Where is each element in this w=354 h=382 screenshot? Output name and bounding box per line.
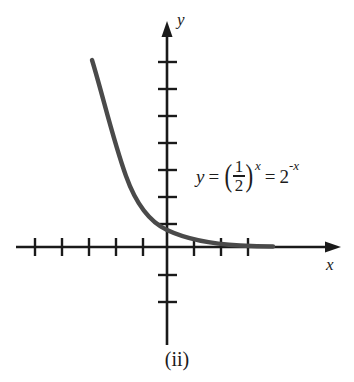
equation-equals-second: = (265, 167, 276, 186)
equation-equals-first: = (208, 167, 219, 186)
figure-caption: (ii) (0, 348, 354, 371)
fraction-denominator: 2 (233, 177, 246, 194)
equation-annotation: y = ( 1 2 ) x = 2 -x (196, 158, 299, 194)
rhs-exponent-variable: x (293, 158, 299, 173)
fraction-one-half: 1 2 (233, 158, 246, 194)
equation-lhs-variable: y (196, 167, 204, 186)
right-paren-glyph: ) (246, 163, 254, 189)
left-paren-glyph: ( (225, 163, 233, 189)
y-axis-label: y (177, 10, 185, 30)
graph-figure (0, 0, 354, 382)
y-axis-arrowhead (162, 21, 173, 37)
equation-rhs-exponent: -x (289, 159, 299, 172)
x-axis-label: x (326, 255, 334, 275)
equation-rhs-base: 2 (279, 167, 289, 186)
exponential-curve (92, 60, 273, 247)
x-axis-arrowhead (325, 242, 341, 253)
equation-exponent: x (255, 159, 261, 172)
fraction-numerator: 1 (233, 158, 246, 175)
